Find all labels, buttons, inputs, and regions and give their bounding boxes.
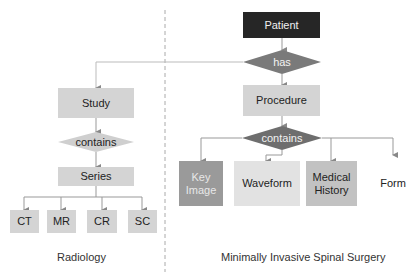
modality-mr: MR [47,210,76,233]
has-label: has [243,50,321,74]
waveform-node: Waveform [234,161,300,206]
form-node: Form [370,161,416,206]
modality-label: CR [94,215,110,228]
modality-label: SC [135,215,150,228]
modality-label: CT [17,215,32,228]
procedure-label: Procedure [256,94,307,107]
study-node: Study [58,88,134,118]
patient-node: Patient [243,12,320,38]
medical-history-node: Medical History [306,161,357,206]
series-label: Series [80,170,111,183]
patient-label: Patient [264,19,298,32]
key-image-label: Key Image [183,171,219,197]
contains-right-label: contains [242,126,322,150]
modality-label: MR [53,215,70,228]
radiology-caption: Radiology [57,251,106,263]
modality-sc: SC [128,210,157,233]
mis-surgery-caption: Minimally Invasive Spinal Surgery [221,251,385,263]
key-image-node: Key Image [179,161,223,206]
waveform-label: Waveform [242,177,292,190]
contains-left-label: contains [58,132,134,152]
form-label: Form [380,177,406,190]
modality-cr: CR [87,210,117,233]
series-node: Series [58,167,134,186]
procedure-node: Procedure [243,85,320,116]
study-label: Study [82,97,110,110]
modality-ct: CT [10,210,39,233]
medical-history-label: Medical History [310,171,353,197]
